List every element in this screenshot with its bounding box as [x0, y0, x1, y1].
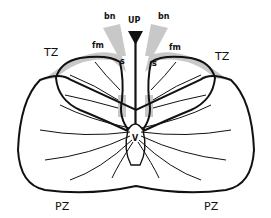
label-fm-left: fm [92, 42, 104, 50]
verumontanum [126, 124, 145, 165]
label-tz-left: TZ [44, 47, 58, 58]
diagram-drawing [0, 0, 271, 218]
label-tz-right: TZ [215, 51, 229, 62]
label-v: V [132, 135, 138, 143]
label-pz-left: PZ [55, 201, 69, 212]
up-arrow-marker [128, 31, 143, 45]
label-bn-right: bn [158, 13, 169, 21]
label-bn-left: bn [104, 13, 115, 21]
label-s-right: s [152, 60, 157, 68]
label-s-left: s [120, 58, 125, 66]
label-pz-right: PZ [204, 201, 218, 212]
prostate-zone-diagram: bn UP bn TZ TZ fm fm s s V PZ PZ [0, 0, 271, 218]
label-up: UP [128, 17, 140, 25]
label-fm-right: fm [169, 44, 181, 52]
